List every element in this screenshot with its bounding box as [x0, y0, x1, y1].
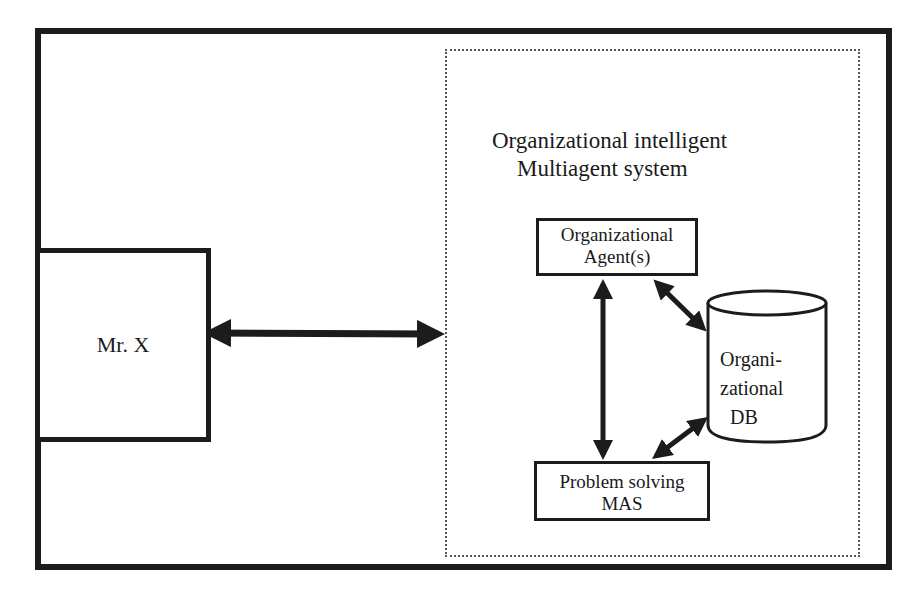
- system-title: Organizational intelligent Multiagent sy…: [492, 127, 727, 183]
- user-node-label: Mr. X: [97, 332, 150, 358]
- database-label: Organi- zational DB: [720, 345, 783, 432]
- db-label-line3: DB: [720, 403, 783, 432]
- mas-box-line1: Problem solving: [537, 471, 707, 493]
- agent-box-line1: Organizational: [539, 224, 695, 246]
- arrow-mas-db: [656, 420, 704, 456]
- problem-solving-mas-box: Problem solving MAS: [534, 461, 710, 521]
- user-node-mr-x: Mr. X: [35, 248, 211, 442]
- diagram-canvas: Mr. X Organizational intelligent Multiag…: [0, 0, 916, 598]
- system-title-line2: Multiagent system: [492, 155, 727, 183]
- arrow-user-system: [210, 333, 438, 334]
- organizational-agent-box: Organizational Agent(s): [536, 218, 698, 276]
- db-label-line1: Organi-: [720, 345, 783, 374]
- arrow-agent-db: [657, 283, 703, 328]
- db-label-line2: zational: [720, 374, 783, 403]
- mas-box-line2: MAS: [537, 493, 707, 515]
- agent-box-line2: Agent(s): [539, 246, 695, 268]
- system-title-line1: Organizational intelligent: [492, 127, 727, 155]
